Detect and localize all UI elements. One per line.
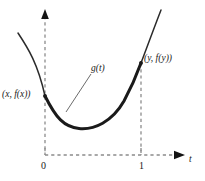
point-marker-left	[43, 94, 47, 98]
t-axis-label: t	[189, 155, 192, 165]
point-marker-right	[139, 61, 143, 65]
tick-label-zero: 0	[41, 161, 46, 171]
y-axis-arrowhead-icon	[41, 9, 49, 19]
t-axis-arrowhead-icon	[174, 151, 185, 159]
right-point-label: (y, f(y))	[144, 54, 172, 64]
gt-leader-line	[66, 74, 91, 112]
figure-container: (x, f(x)) (y, f(y)) g(t) t 0 1	[0, 0, 205, 181]
tick-label-one: 1	[139, 161, 144, 171]
left-point-label: (x, f(x))	[2, 90, 30, 100]
convex-function-plot	[0, 0, 205, 181]
curve-label-gt: g(t)	[91, 64, 105, 74]
curve-segment-left-thin	[18, 33, 45, 96]
